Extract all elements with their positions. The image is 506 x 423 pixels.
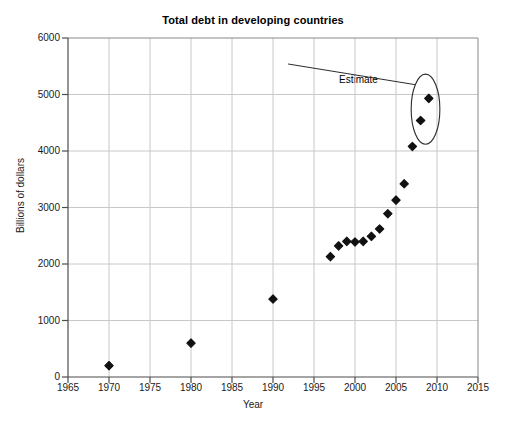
data-point xyxy=(408,142,416,150)
data-point xyxy=(375,225,383,233)
annotation-estimate xyxy=(288,64,440,144)
chart-container: Total debt in developing countries Billi… xyxy=(0,0,506,423)
data-point-group xyxy=(105,94,433,370)
data-point xyxy=(269,295,277,303)
data-point xyxy=(334,242,342,250)
data-point xyxy=(187,339,195,347)
data-point xyxy=(400,180,408,188)
x-axis-ticks xyxy=(68,377,478,383)
plot-area-svg xyxy=(0,0,506,423)
data-point xyxy=(351,238,359,246)
data-point xyxy=(359,237,367,245)
data-point xyxy=(105,362,113,370)
data-point xyxy=(416,116,424,124)
data-point xyxy=(367,232,375,240)
data-point xyxy=(425,94,433,102)
data-point xyxy=(343,237,351,245)
data-point xyxy=(326,252,334,260)
data-point xyxy=(392,196,400,204)
data-point xyxy=(384,210,392,218)
estimate-ellipse xyxy=(411,74,440,144)
y-axis-ticks xyxy=(62,38,68,377)
